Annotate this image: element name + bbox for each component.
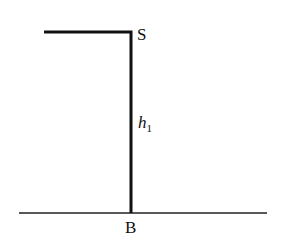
- label-height-h: h: [138, 113, 147, 132]
- label-s: S: [137, 25, 146, 44]
- label-b: B: [125, 218, 136, 237]
- tower-outline: [44, 32, 131, 213]
- diagram-canvas: S h1 B: [0, 0, 289, 245]
- label-height: h1: [138, 113, 152, 134]
- label-height-subscript: 1: [147, 122, 153, 134]
